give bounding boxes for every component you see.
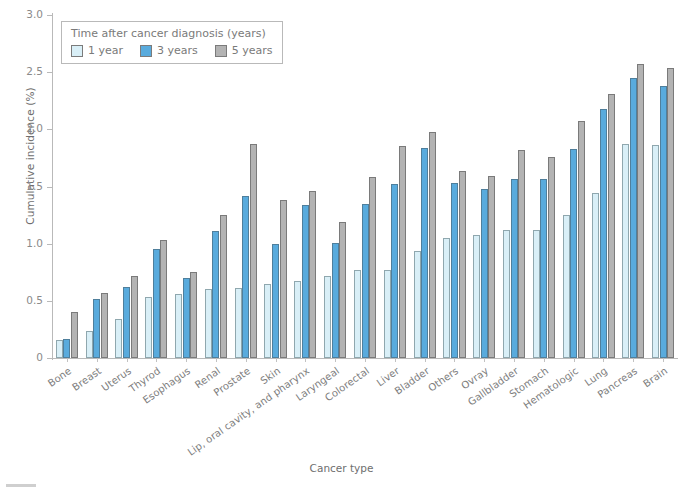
- bar: [63, 339, 70, 358]
- bar: [414, 251, 421, 358]
- bar: [443, 238, 450, 358]
- x-axis-tickmark: [127, 358, 128, 362]
- bar: [548, 157, 555, 358]
- bar: [592, 193, 599, 358]
- bar: [153, 249, 160, 358]
- x-axis-title: Cancer type: [0, 462, 683, 474]
- bar: [421, 148, 428, 358]
- x-axis-tickmark: [276, 358, 277, 362]
- x-axis-tickmark: [425, 358, 426, 362]
- bar: [473, 235, 480, 358]
- legend-label: 5 years: [232, 44, 273, 57]
- bar: [630, 78, 637, 358]
- bar: [563, 215, 570, 358]
- bar: [101, 293, 108, 358]
- bar: [332, 243, 339, 358]
- bar: [391, 184, 398, 358]
- bar: [309, 191, 316, 358]
- bar: [145, 297, 152, 358]
- bar: [175, 294, 182, 358]
- bar: [212, 231, 219, 358]
- bar: [190, 272, 197, 358]
- legend-swatch: [140, 45, 152, 57]
- bar: [399, 146, 406, 358]
- bar: [339, 222, 346, 358]
- bar: [264, 284, 271, 358]
- legend-item[interactable]: 5 years: [215, 44, 273, 57]
- legend-swatch: [71, 45, 83, 57]
- bar: [533, 230, 540, 358]
- bar: [384, 270, 391, 358]
- chart-legend: Time after cancer diagnosis (years) 1 ye…: [61, 21, 283, 64]
- x-axis-tickmark: [67, 358, 68, 362]
- bar: [93, 299, 100, 358]
- legend-title: Time after cancer diagnosis (years): [71, 27, 273, 40]
- bar: [183, 278, 190, 358]
- bar: [280, 200, 287, 358]
- x-axis-tickmark: [156, 358, 157, 362]
- bar: [242, 196, 249, 358]
- bar: [637, 64, 644, 358]
- bar: [160, 240, 167, 358]
- bar: [503, 230, 510, 358]
- bar: [622, 144, 629, 358]
- bar: [294, 281, 301, 358]
- bar-series-container: [0, 0, 683, 492]
- bar: [518, 150, 525, 358]
- bar: [369, 177, 376, 358]
- bar: [235, 288, 242, 358]
- bar: [272, 244, 279, 358]
- bar: [115, 319, 122, 358]
- bar: [459, 171, 466, 359]
- x-axis-tickmark: [335, 358, 336, 362]
- bar: [578, 121, 585, 358]
- x-axis-tickmark: [365, 358, 366, 362]
- bar: [488, 176, 495, 358]
- bar: [205, 289, 212, 358]
- bar: [540, 179, 547, 359]
- bar-chart-figure: Cumulative incidence (%) 00.51.01.52.02.…: [0, 0, 683, 492]
- footer-mark: [6, 484, 36, 487]
- bar: [570, 149, 577, 358]
- legend-label: 3 years: [157, 44, 198, 57]
- bar: [451, 183, 458, 358]
- bar: [608, 94, 615, 358]
- x-axis-tickmark: [246, 358, 247, 362]
- x-axis-tickmark: [305, 358, 306, 362]
- bar: [660, 86, 667, 358]
- x-axis-tickmark: [395, 358, 396, 362]
- bar: [600, 109, 607, 358]
- bar: [324, 276, 331, 358]
- legend-item[interactable]: 1 year: [71, 44, 123, 57]
- legend-item-list: 1 year3 years5 years: [71, 44, 273, 57]
- x-axis-tickmark: [186, 358, 187, 362]
- bar: [123, 287, 130, 358]
- x-axis-tickmark: [514, 358, 515, 362]
- bar: [362, 204, 369, 358]
- x-axis-tickmark: [544, 358, 545, 362]
- bar: [354, 270, 361, 358]
- x-axis-tickmark: [633, 358, 634, 362]
- bar: [220, 215, 227, 358]
- x-axis-tickmark: [97, 358, 98, 362]
- x-axis-tickmark: [574, 358, 575, 362]
- bar: [250, 144, 257, 358]
- x-axis-tickmark: [484, 358, 485, 362]
- x-axis-tickmark: [216, 358, 217, 362]
- legend-item[interactable]: 3 years: [140, 44, 198, 57]
- bar: [429, 132, 436, 358]
- bar: [481, 189, 488, 358]
- bar: [86, 331, 93, 358]
- bar: [511, 179, 518, 359]
- x-axis-tickmark: [454, 358, 455, 362]
- bar: [71, 312, 78, 358]
- x-axis-tickmark: [603, 358, 604, 362]
- legend-swatch: [215, 45, 227, 57]
- bar: [302, 205, 309, 358]
- legend-label: 1 year: [88, 44, 123, 57]
- x-axis-tickmark: [663, 358, 664, 362]
- bar: [131, 276, 138, 358]
- bar: [652, 145, 659, 358]
- bar: [56, 340, 63, 358]
- bar: [667, 68, 674, 358]
